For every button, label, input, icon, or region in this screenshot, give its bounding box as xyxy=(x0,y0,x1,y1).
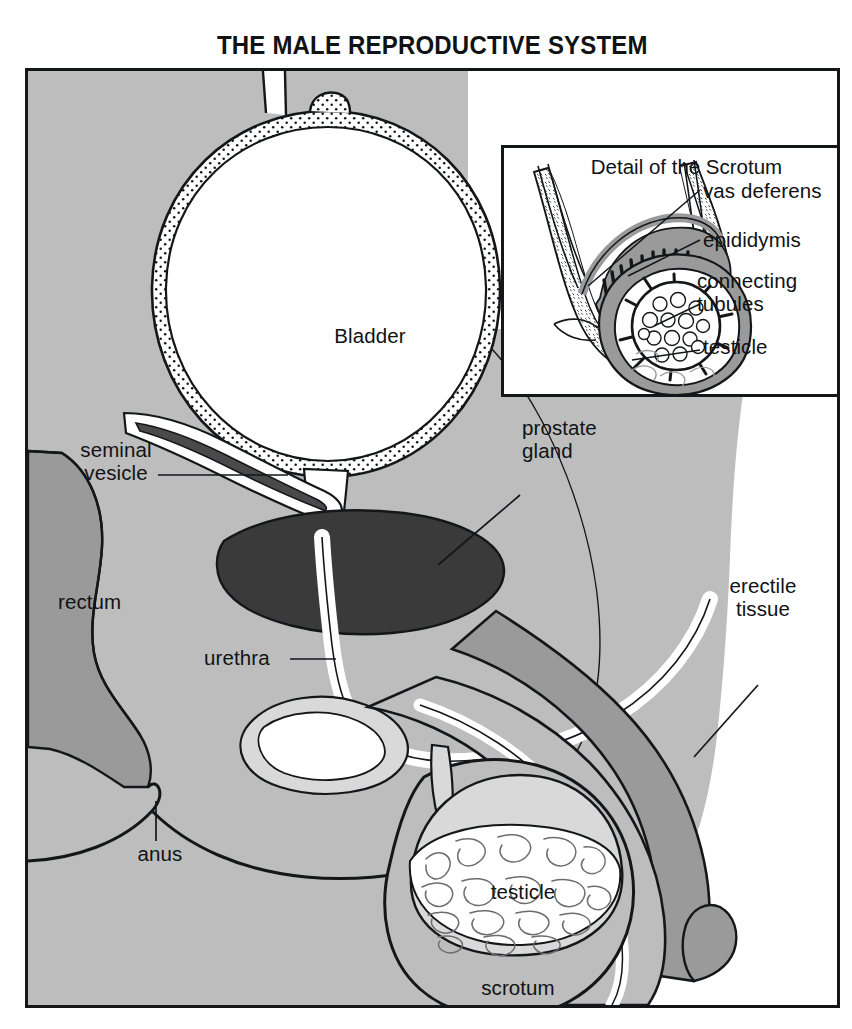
page-title: THE MALE REPRODUCTIVE SYSTEM xyxy=(217,31,648,60)
figure-root: THE MALE REPRODUCTIVE SYSTEM xyxy=(0,0,852,1029)
label-anus: anus xyxy=(116,843,204,866)
label-rectum: rectum xyxy=(58,591,178,614)
inset-label-connecting-tubules: connecting tubules xyxy=(697,270,837,315)
label-prostate-gland: prostate gland xyxy=(522,417,672,462)
label-scrotum: scrotum xyxy=(448,977,588,1000)
title-bar: THE MALE REPRODUCTIVE SYSTEM xyxy=(25,22,840,71)
label-seminal-vesicle: seminal vesicle xyxy=(46,439,186,484)
diagram-canvas: Bladder seminal vesicle prostate gland r… xyxy=(28,71,837,1005)
label-urethra: urethra xyxy=(204,647,314,670)
label-erectile-tissue: erectile tissue xyxy=(694,575,832,620)
label-bladder: Bladder xyxy=(310,325,430,348)
inset-label-testicle: testicle xyxy=(703,336,837,359)
inset-title: Detail of the Scrotum xyxy=(504,155,837,179)
inset-label-epididymis: epididymis xyxy=(703,229,837,252)
label-testicle: testicle xyxy=(458,881,588,904)
inset-panel-scrotum-detail: Detail of the Scrotum vas deferens epidi… xyxy=(501,145,837,397)
inset-label-vas-deferens: vas deferens xyxy=(703,180,837,203)
